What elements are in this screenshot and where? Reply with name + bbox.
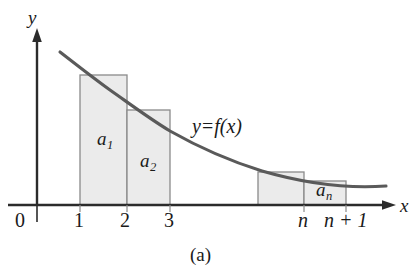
y-axis <box>32 28 42 205</box>
bar-label-a1-base: a <box>97 128 107 149</box>
curve-equation-label: y=f(x) <box>192 116 242 136</box>
x-tick-label-n: n <box>298 210 308 230</box>
y-axis-label: y <box>28 8 36 27</box>
x-axis-label: x <box>400 196 408 215</box>
bar-group <box>80 75 346 205</box>
bar-label-an-subscript: n <box>326 189 332 203</box>
curve-equation-operator: = <box>201 115 214 137</box>
x-tick-label-0: 0 <box>15 210 25 230</box>
figure-container: y x y=f(x) a1 a2 an 0 1 2 3 n n + 1 (a) <box>0 0 416 268</box>
x-tick-label-3: 3 <box>164 210 174 230</box>
bar-label-a2: a2 <box>140 151 156 170</box>
curve-equation-rhs: f(x) <box>214 115 242 137</box>
curve-equation-lhs: y <box>192 115 201 137</box>
bar-label-an-base: a <box>316 179 326 200</box>
bar-label-a1-subscript: 1 <box>107 138 113 152</box>
x-tick-label-1: 1 <box>74 210 84 230</box>
x-tick-label-2: 2 <box>120 210 130 230</box>
x-tick-label-n-plus-1: n + 1 <box>324 210 368 230</box>
bar-label-an: an <box>316 180 332 199</box>
bar-label-a2-base: a <box>140 150 150 171</box>
bar-label-a2-subscript: 2 <box>150 160 156 174</box>
figure-caption: (a) <box>190 245 211 264</box>
bar-label-a1: a1 <box>97 129 113 148</box>
